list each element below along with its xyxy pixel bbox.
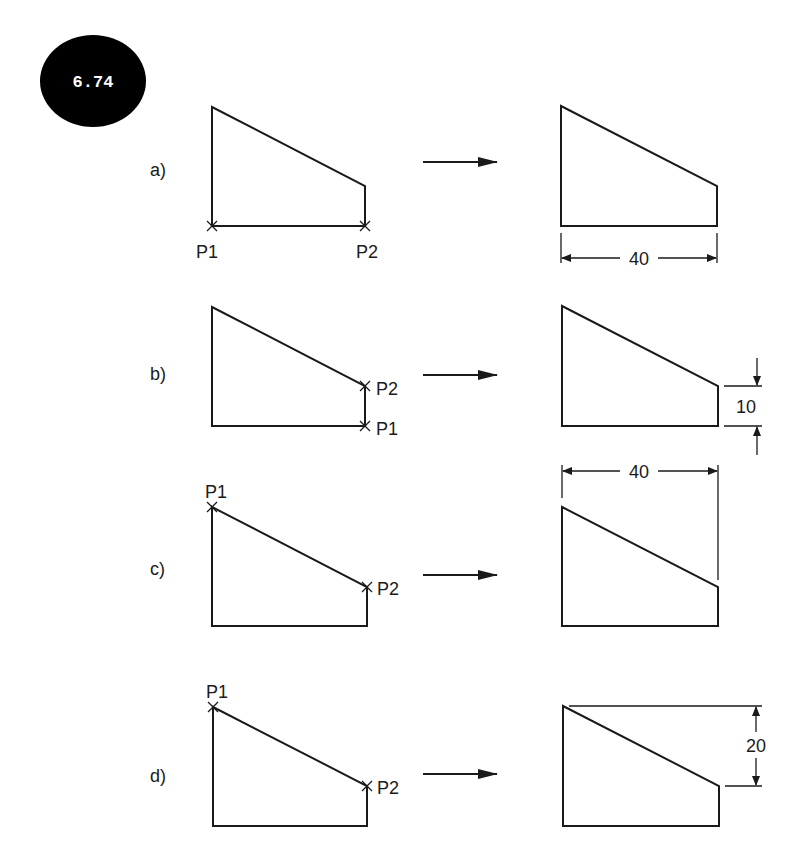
exercise-number-badge: 6.74 xyxy=(40,35,146,127)
p1-label: P1 xyxy=(205,482,227,502)
after-shape xyxy=(562,507,718,626)
before-shape xyxy=(213,707,367,826)
before-shape xyxy=(212,307,365,426)
badge-text: 6.74 xyxy=(73,73,114,92)
row-label: b) xyxy=(150,364,166,384)
row-b: b) P2 P1 10 xyxy=(150,306,762,455)
after-shape xyxy=(561,106,717,226)
dimension-value: 40 xyxy=(629,462,649,482)
after-shape xyxy=(562,306,718,426)
p1-label: P1 xyxy=(206,682,228,702)
p1-label: P1 xyxy=(376,419,398,439)
p2-label: P2 xyxy=(377,778,399,798)
row-label: a) xyxy=(150,160,166,180)
row-label: c) xyxy=(150,559,165,579)
exercise-diagram: 6.74 a) P1 P2 40 b) P2 P1 10 c) xyxy=(0,0,811,866)
dimension-value: 10 xyxy=(736,397,756,417)
p1-label: P1 xyxy=(196,242,218,262)
dimension-value: 40 xyxy=(629,249,649,269)
p2-label: P2 xyxy=(356,242,378,262)
p2-label: P2 xyxy=(376,379,398,399)
row-c: c) P1 P2 40 xyxy=(150,462,718,626)
dimension-value: 20 xyxy=(746,736,766,756)
row-a: a) P1 P2 40 xyxy=(150,106,717,269)
after-shape xyxy=(563,706,719,826)
before-shape xyxy=(212,107,365,226)
before-shape xyxy=(212,507,367,626)
row-label: d) xyxy=(150,766,166,786)
row-d: d) P1 P2 20 xyxy=(150,682,766,826)
p2-label: P2 xyxy=(377,579,399,599)
